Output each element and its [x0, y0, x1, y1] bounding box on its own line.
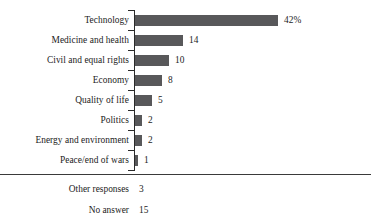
bar-wrapper: [135, 95, 152, 106]
footnote-value: 3: [139, 179, 144, 199]
bar-category-label: Energy and environment: [0, 130, 129, 150]
bar-category-label: Peace/end of wars: [0, 150, 129, 170]
footnote-row: Other responses3: [0, 179, 378, 199]
bar-row: Peace/end of wars1: [0, 150, 378, 170]
bar-wrapper: [135, 55, 169, 66]
bar-row: Economy8: [0, 70, 378, 90]
section-divider: [0, 174, 371, 175]
bar-value-label: 42%: [284, 10, 301, 30]
bar: [135, 155, 138, 166]
bar-row: Quality of life5: [0, 90, 378, 110]
bar-row: Civil and equal rights10: [0, 50, 378, 70]
bar-value-label: 8: [168, 70, 173, 90]
bar-row: Politics2: [0, 110, 378, 130]
bar-value-label: 1: [144, 150, 149, 170]
bar-value-label: 2: [148, 110, 153, 130]
bar-wrapper: [135, 115, 142, 126]
footnote-label: Other responses: [0, 179, 129, 199]
bar-category-label: Politics: [0, 110, 129, 130]
bar: [135, 95, 152, 106]
bar-wrapper: [135, 135, 142, 146]
bar-value-label: 14: [189, 30, 198, 50]
plot-area: Technology42%Medicine and health14Civil …: [0, 0, 378, 174]
bar-row: Technology42%: [0, 10, 378, 30]
bar: [135, 75, 162, 86]
bar-wrapper: [135, 75, 162, 86]
bar-row: Medicine and health14: [0, 30, 378, 50]
bar-category-label: Technology: [0, 10, 129, 30]
bar-value-label: 2: [148, 130, 153, 150]
bar-value-label: 5: [158, 90, 163, 110]
footnote-row: No answer15: [0, 200, 378, 220]
bar-category-label: Economy: [0, 70, 129, 90]
bar: [135, 115, 142, 126]
axis-tick: [128, 170, 135, 171]
bar-wrapper: [135, 35, 183, 46]
bar: [135, 55, 169, 66]
bar-category-label: Quality of life: [0, 90, 129, 110]
bar-category-label: Medicine and health: [0, 30, 129, 50]
footnote-label: No answer: [0, 200, 129, 220]
bar: [135, 35, 183, 46]
bar-wrapper: [135, 155, 138, 166]
footnote-value: 15: [139, 200, 148, 220]
bar-row: Energy and environment2: [0, 130, 378, 150]
bar: [135, 15, 278, 26]
bar-value-label: 10: [175, 50, 184, 70]
bar-chart: Technology42%Medicine and health14Civil …: [0, 0, 378, 222]
bar-category-label: Civil and equal rights: [0, 50, 129, 70]
bar: [135, 135, 142, 146]
bar-wrapper: [135, 15, 278, 26]
